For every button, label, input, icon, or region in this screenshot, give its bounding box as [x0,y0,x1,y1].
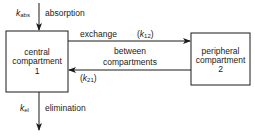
absorption-label: absorption [45,8,85,18]
k-abs-label: kabs [16,8,30,20]
abs-subscript: abs [20,12,30,18]
elimination-label: elimination [45,103,86,113]
between-label: between [90,46,170,56]
peripheral-box-line3: 2 [191,64,250,74]
central-box-line2: compartment [6,56,68,66]
k-el-label: kel [20,103,29,115]
compartments-label: compartments [90,57,170,67]
k21-label: (k21) [80,73,97,85]
el-subscript: el [24,107,29,113]
k12-label: (k12) [137,29,154,41]
central-box-line3: 1 [6,66,68,76]
close-paren: ) [151,29,154,39]
k21-subscript: 21 [87,77,94,83]
close-paren: ) [94,73,97,83]
k12-subscript: 12 [144,33,151,39]
exchange-label: exchange [80,29,117,39]
